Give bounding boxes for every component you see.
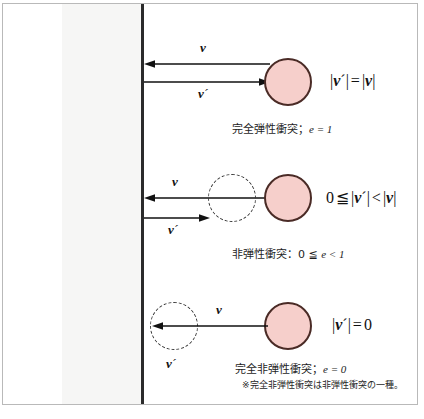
caption-perfectly-elastic: 完全弾性衝突；e = 1	[232, 120, 332, 136]
outgoing-velocity-label: v´	[166, 356, 176, 372]
incoming-velocity-label: v	[216, 302, 222, 318]
formula-inelastic: 0≦|v´|<|v|	[326, 188, 396, 207]
formula-perfectly-elastic: |v´|=|v|	[330, 72, 375, 90]
incoming-velocity-arrow	[152, 320, 268, 332]
row-perfectly-elastic: v v´ |v´|=|v| 完全弾性衝突；e = 1	[0, 28, 424, 140]
outgoing-velocity-label: v´	[198, 86, 208, 102]
ghost-ball	[208, 174, 256, 222]
incoming-velocity-arrow	[144, 58, 270, 70]
row-inelastic: v v´ 0≦|v´|<|v| 非弾性衝突：0 ≦ e < 1	[0, 152, 424, 264]
ball	[264, 302, 312, 350]
footnote: ※完全非弾性衝突は非弾性衝突の一種。	[242, 378, 403, 391]
collision-diagram-figure: v v´ |v´|=|v| 完全弾性衝突；e = 1 v	[0, 0, 424, 419]
incoming-velocity-label: v	[172, 174, 178, 190]
formula-perfectly-inelastic: |v´|=0	[332, 316, 372, 334]
row-perfectly-inelastic: v v´ |v´|=0 完全非弾性衝突；e = 0 ※完全非弾性衝突は非弾性衝突…	[0, 276, 424, 404]
caption-inelastic: 非弾性衝突：0 ≦ e < 1	[232, 245, 345, 261]
incoming-velocity-label: v	[200, 40, 206, 56]
caption-perfectly-inelastic: 完全非弾性衝突；e = 0	[235, 360, 346, 376]
ball	[264, 174, 312, 222]
ball	[264, 58, 312, 106]
outgoing-velocity-label: v´	[168, 222, 178, 238]
